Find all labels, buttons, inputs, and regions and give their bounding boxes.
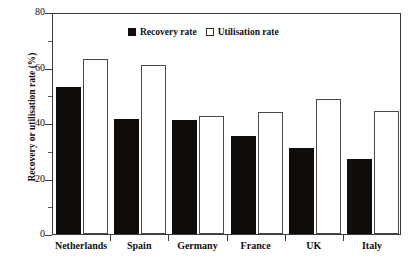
y-axis-tick (45, 235, 52, 236)
bar-italy-utilisation (374, 111, 399, 234)
y-axis-tick-label: 80 (3, 6, 45, 17)
legend-label-recovery: Recovery rate (140, 27, 197, 37)
legend-swatch-utilisation-icon (206, 28, 214, 36)
y-axis-minor-tick (48, 207, 52, 208)
y-axis-tick (45, 124, 52, 125)
bar-netherlands-recovery (56, 87, 81, 234)
y-axis-tick-label: 40 (3, 117, 45, 128)
bar-germany-utilisation (199, 116, 224, 234)
bar-italy-recovery (347, 159, 372, 234)
x-axis-label-uk: UK (285, 240, 343, 251)
y-axis-labels: 020406080 (0, 0, 45, 264)
plot-area (52, 13, 401, 235)
bar-uk-utilisation (316, 99, 341, 234)
y-axis-tick-label: 20 (3, 173, 45, 184)
y-axis-minor-tick (48, 96, 52, 97)
y-axis-minor-tick (48, 152, 52, 153)
y-axis-tick (45, 180, 52, 181)
bar-uk-recovery (289, 148, 314, 234)
x-axis-label-spain: Spain (110, 240, 168, 251)
x-axis-label-netherlands: Netherlands (52, 240, 110, 251)
bar-netherlands-utilisation (83, 59, 108, 234)
y-axis-tick-label: 60 (3, 62, 45, 73)
bar-chart: Recovery or utilisation rate (%) 0204060… (0, 0, 414, 264)
bar-france-recovery (231, 136, 256, 235)
legend-entry-recovery: Recovery rate (128, 27, 197, 37)
bar-spain-utilisation (141, 65, 166, 234)
y-axis-tick (45, 69, 52, 70)
y-axis-tick (45, 13, 52, 14)
bar-france-utilisation (258, 112, 283, 234)
bar-germany-recovery (172, 120, 197, 234)
legend-entry-utilisation: Utilisation rate (206, 27, 279, 37)
legend-swatch-recovery-icon (128, 28, 136, 36)
legend-label-utilisation: Utilisation rate (218, 27, 279, 37)
y-axis-minor-tick (48, 41, 52, 42)
chart-legend: Recovery rate Utilisation rate (128, 27, 279, 37)
x-axis-label-france: France (227, 240, 285, 251)
y-axis-tick-label: 0 (3, 228, 45, 239)
bar-spain-recovery (114, 119, 139, 234)
x-axis-label-germany: Germany (168, 240, 226, 251)
x-axis-label-italy: Italy (343, 240, 401, 251)
